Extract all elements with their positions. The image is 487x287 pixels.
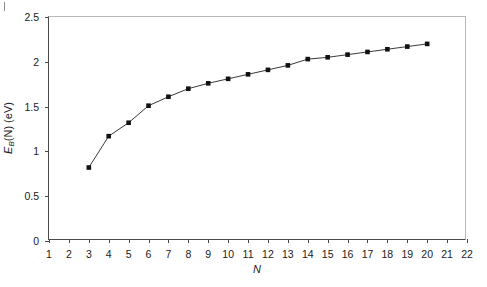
y-axis-tick: 2 (45, 62, 49, 63)
x-axis-tick: 10 (228, 239, 229, 243)
x-axis-tick-label: 20 (421, 249, 433, 260)
x-axis-tick: 1 (49, 239, 50, 243)
x-axis-tick: 13 (288, 239, 289, 243)
data-point-marker (206, 81, 211, 86)
data-series-svg (49, 17, 467, 241)
x-axis-tick-label: 8 (185, 249, 191, 260)
x-axis-tick-label: 4 (106, 249, 112, 260)
x-axis-tick-label: 13 (282, 249, 294, 260)
x-axis-tick-label: 2 (66, 249, 72, 260)
y-axis-tick-label: 0.5 (24, 191, 39, 202)
plot-area: 00.511.522.51234567891011121314151617181… (48, 16, 466, 240)
x-axis-tick: 22 (467, 239, 468, 243)
x-axis-tick-label: 15 (322, 249, 334, 260)
x-axis-tick-label: 12 (262, 249, 274, 260)
x-axis-tick-label: 17 (362, 249, 374, 260)
x-axis-tick: 3 (89, 239, 90, 243)
data-point-marker (87, 165, 92, 170)
x-axis-tick-label: 7 (166, 249, 172, 260)
x-axis-tick: 17 (367, 239, 368, 243)
data-point-marker (246, 72, 251, 77)
x-axis-tick-label: 18 (382, 249, 394, 260)
x-axis-tick: 4 (109, 239, 110, 243)
x-axis-tick-label: 14 (302, 249, 314, 260)
figure-container: EB(N) (eV) 00.511.522.512345678910111213… (0, 0, 487, 287)
data-point-marker (186, 86, 191, 91)
y-axis-tick-label: 2 (33, 57, 39, 68)
y-axis-title-wrapper: EB(N) (eV) (14, 0, 15, 287)
data-point-marker (126, 120, 131, 125)
y-axis-tick-label: 1.5 (24, 101, 39, 112)
x-axis-tick: 21 (447, 239, 448, 243)
x-axis-tick-label: 5 (126, 249, 132, 260)
y-axis-title-rest: (N) (eV) (2, 102, 14, 141)
data-point-marker (305, 57, 310, 62)
corner-tick-mark (4, 2, 5, 11)
data-point-marker (425, 42, 430, 47)
x-axis-tick: 9 (208, 239, 209, 243)
data-point-marker (345, 52, 350, 57)
x-axis-tick: 12 (268, 239, 269, 243)
data-point-marker (385, 47, 390, 52)
x-axis-tick: 11 (248, 239, 249, 243)
x-axis-tick: 16 (348, 239, 349, 243)
x-axis-tick-label: 3 (86, 249, 92, 260)
x-axis-tick-label: 22 (461, 249, 473, 260)
y-axis-tick: 1.5 (45, 107, 49, 108)
x-axis-tick-label: 10 (222, 249, 234, 260)
data-point-marker (166, 94, 171, 99)
x-axis-tick: 8 (188, 239, 189, 243)
x-axis-tick: 15 (328, 239, 329, 243)
x-axis-tick-label: 1 (46, 249, 52, 260)
x-axis-tick: 14 (308, 239, 309, 243)
x-axis-tick-label: 9 (205, 249, 211, 260)
y-axis-title: EB(N) (eV) (3, 102, 14, 154)
data-point-marker (325, 55, 330, 60)
y-axis-title-subscript: B (7, 141, 16, 146)
y-axis-tick-label: 0 (33, 236, 39, 247)
x-axis-tick-label: 21 (441, 249, 453, 260)
data-point-marker (106, 134, 111, 139)
y-axis-title-symbol: E (2, 147, 14, 154)
x-axis-tick: 2 (69, 239, 70, 243)
x-axis-tick: 7 (168, 239, 169, 243)
x-axis-tick-label: 6 (146, 249, 152, 260)
data-point-marker (286, 63, 291, 68)
y-axis-tick: 0.5 (45, 196, 49, 197)
x-axis-title: N (48, 264, 466, 275)
data-point-marker (365, 50, 370, 55)
x-axis-tick: 19 (407, 239, 408, 243)
y-axis-tick-label: 2.5 (24, 12, 39, 23)
x-axis-tick-label: 19 (401, 249, 413, 260)
x-axis-tick: 20 (427, 239, 428, 243)
x-axis-tick-label: 11 (243, 249, 254, 260)
data-point-marker (146, 103, 151, 108)
y-axis-tick-label: 1 (33, 146, 39, 157)
y-axis-tick: 1 (45, 151, 49, 152)
x-axis-tick: 6 (149, 239, 150, 243)
data-point-marker (226, 77, 231, 82)
x-axis-tick: 5 (129, 239, 130, 243)
data-point-marker (266, 68, 271, 73)
x-axis-tick-label: 16 (342, 249, 354, 260)
x-axis-tick: 18 (387, 239, 388, 243)
y-axis-tick: 2.5 (45, 17, 49, 18)
data-point-marker (405, 44, 410, 49)
series-line (89, 44, 427, 168)
